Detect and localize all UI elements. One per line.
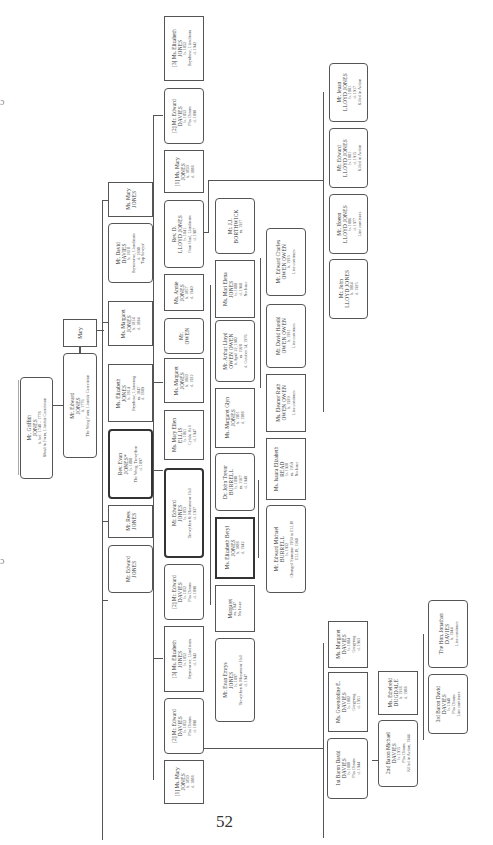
person-evan-emrys-jones: Mr. Evan Emrys JONES b. 1897 Trewythen &… (215, 638, 255, 722)
connector (153, 115, 163, 116)
connector (153, 470, 163, 471)
person-rev-d-lloyd-jones: Rev. D. LLOYD JONES b. 1841 Fron Haul, L… (164, 200, 204, 268)
person-edward-davies-2: [2] Mr. Edward DAVIES b. 1852 Plas Dinam… (164, 88, 204, 144)
person-margaret-glyn-jones: Ms. Margaret Glyn JONES b. 1901 d. 1988 (215, 388, 255, 448)
person-borthwick: Mr. J.J. BORTHWICK m. 1917 (215, 198, 255, 254)
person-john-lloyd-jones: Mr. John LLOYD JONES b. 1884 d. 1925 (329, 259, 368, 319)
connector (208, 180, 323, 181)
connector (208, 180, 209, 233)
person-hon-jonathan-davies: The Hon. Jonathan DAVIES b. 1944 Line co… (428, 600, 468, 668)
person-edward-jones-trewythen: Mr. Edward JONES b. 1853 Trewythen & Mae… (164, 468, 204, 558)
person-edward-jones: Mr. Edward JONES (108, 545, 153, 593)
person-elizabeth-jones-3: [3] Ms. Elizabeth JONES b. 1852 Brynhose… (164, 16, 204, 81)
person-rees-jones: Mr. Rees JONES (108, 505, 153, 538)
person-annie-jones: Ms. Annie JONES b. 1857 d. 1940 (164, 274, 204, 311)
person-margaret: Margaret m. 1947 No Issue (215, 585, 255, 632)
edge-mark-top: ɔ (0, 96, 4, 107)
person-rev-evan-jones: Rev. Evan JONES* b. 1808 The Weeg, Trewy… (108, 429, 153, 499)
person-mary-jones: Ms. Mary JONES (108, 182, 153, 217)
connector (323, 92, 324, 412)
person-margaret-davies: Ms. Margaret DAVIES b. 1884 Gregynog d. … (328, 621, 368, 668)
person-ifoeon-lloyd-jones: Mr. Ifoeon LLOYD JONES b. 1886 d. 1977 L… (329, 194, 368, 254)
connector (153, 382, 163, 383)
connector (102, 200, 103, 840)
person-mary-jones-1: [1] Ms. Mary JONES b. 1850 d. 1888 (164, 150, 204, 193)
page-number: 52 (216, 812, 233, 832)
connector (260, 258, 261, 388)
person-gwendoline-davies: Ms. Gwendoline E. DAVIES b. 1882 Gregyno… (328, 672, 368, 732)
person-2nd-baron-michael-davies: 2nd Baron Michael DAVIES b. 1915 Plas Di… (378, 720, 418, 787)
connector (203, 748, 323, 749)
person-griffith-jones: Mr. Griffith JONES b. bef. 1748 – 1778 R… (20, 377, 53, 479)
margin-rule (18, 380, 19, 475)
person-david-harold-owen-owen: Mr. David Harold OWEN OWEN b. 1931 Line … (266, 304, 306, 368)
person-edward-jones-sr: Mr. Edward JONES b. 1776 The Weeg Farm, … (63, 353, 97, 458)
person-mary-spouse: Mary (63, 319, 97, 347)
person-isaura-elizabeth-read: Ms. Isaura Elizabeth READ b. 1928 m. 195… (266, 438, 306, 500)
person-1st-baron-david-davies: 1st Baron David DAVIES b. 1880 Plas Dina… (327, 738, 368, 799)
person-ieuan-lloyd-jones: Mr. Ieuan LLOYD JONES b. 1881 d. 1917 Ki… (329, 63, 368, 122)
person-mari-elena-jones: Ms. Mari Elena JONES b. 1888 d. 1968 No … (215, 260, 255, 318)
person-3rd-baron-david-davies: 3rd Baron David DAVIES b. 1940 Plas Dina… (428, 674, 468, 734)
person-elizabeth-jones: Ms. Elizabeth JONES b. 1814 Brynhose, Ll… (108, 364, 153, 422)
person-edward-davies-2b: [2] Mr. Edward DAVIES b. 1852 Plas Dinam… (164, 564, 204, 620)
person-edward-michael-burrell: Mr. Edward Michael BURRELL b. 1932 Chang… (266, 505, 306, 593)
connector (153, 658, 163, 659)
person-edward-davies-2c: [2] Mr. Edward DAVIES b. 1852 Plas Dinam… (164, 698, 204, 754)
person-elizabeth-beryl-jones: Ms. Elizabeth Beryl JONES b. 1888 d. 194… (215, 517, 255, 579)
edge-mark-bottom: ɔ (0, 555, 4, 566)
connector (102, 600, 108, 601)
person-ethelreld-dugdale: Ms. Ethelreld DUGDALE b. 1918 d. 1988 (378, 671, 418, 715)
connector (423, 634, 424, 740)
connector (153, 115, 154, 780)
connector (323, 643, 324, 838)
person-arthur-owen-owen: Mr. Arthur Lloyd OWEN OWEN b. April 22, … (215, 320, 255, 382)
person-john-trevor-burrell: Dr. John Trevor BURRELL b. 1890 m. 1927 … (215, 453, 255, 511)
person-margaret-jones-2: Ms. Margaret JONES b. 1860 d. 1922 (164, 358, 204, 403)
person-mary-jones-1b: [1] Ms. Mary JONES b. 1850 d. 1888 (164, 760, 204, 804)
person-eleanor-ruth-owen-owen: Ms. Eleanor Ruth OWEN OWEN b. 1929 Line … (266, 374, 306, 432)
person-mr-owen: Mr. OWEN (164, 318, 204, 354)
connector (210, 285, 211, 605)
person-mary-ellen-ellis: Ms. Mary Ellen ELLIS b. 1861 Cyfalu Hall… (164, 410, 204, 460)
person-edward-charles-owen-owen: Mr. Edward Charles OWEN OWEN b. 1933 Lin… (266, 228, 306, 296)
person-margaret-jones: Ms. Margaret JONES b. 1814 d. 1894 (108, 301, 153, 346)
person-elizabeth-jones-3b: [3] Ms. Elizabeth JONES b. 1852 Brynawrw… (164, 626, 204, 692)
person-david-davies: Mr. David DAVIES b. 1818 Brynawrwe, Llan… (108, 223, 153, 283)
person-edward-lloyd-jones: Mr. Edward LLOYD JONES b. 1881 d. 1915 K… (329, 128, 368, 188)
connector (258, 480, 259, 558)
